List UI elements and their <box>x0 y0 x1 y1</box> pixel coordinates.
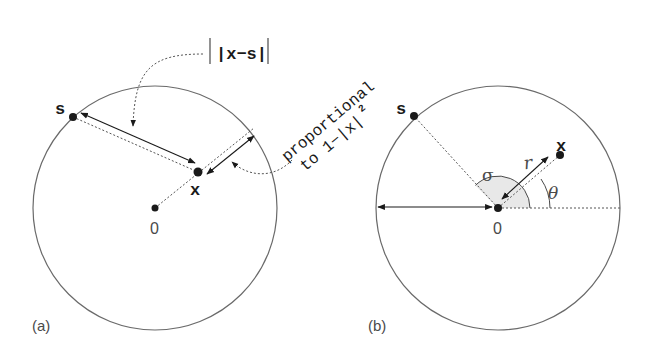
pointer-curve-proportional <box>232 160 292 174</box>
dotted-origin-to-edge <box>155 128 254 208</box>
origin-point-a <box>152 205 159 212</box>
label-r: r <box>522 151 535 173</box>
proportional-annotation: proportional to 1−|x| 2 <box>279 78 391 180</box>
distance-arrow-x-s <box>81 113 195 163</box>
panel-label-a: (a) <box>32 317 50 334</box>
distance-label: |x−s| <box>210 38 268 64</box>
label-s-b: s <box>396 100 406 119</box>
panel-b: s x 0 r σ θ (b) <box>368 86 620 334</box>
label-s-a: s <box>55 100 65 119</box>
panel-label-b: (b) <box>368 317 386 334</box>
panel-a: s x 0 |x−s| proportional to 1−|x| 2 (a) <box>32 38 391 334</box>
distance-arrow-x-edge <box>207 136 254 174</box>
unit-disk-diagram: s x 0 |x−s| proportional to 1−|x| 2 (a) <box>0 0 650 364</box>
point-x-a <box>194 168 203 177</box>
distance-label-text: |x−s| <box>216 45 267 64</box>
label-sigma: σ <box>482 165 494 185</box>
origin-point-b <box>494 204 502 212</box>
dotted-s-to-x <box>73 117 198 172</box>
label-origin-a: 0 <box>150 220 159 237</box>
point-s-a <box>69 113 77 121</box>
label-origin-b: 0 <box>493 220 502 237</box>
annotation-exponent: 2 <box>356 102 368 114</box>
pointer-curve-distance <box>133 54 203 126</box>
label-theta: θ <box>548 183 558 203</box>
label-x-b: x <box>556 137 566 156</box>
label-x-a: x <box>190 181 200 200</box>
point-s-b <box>410 112 418 120</box>
